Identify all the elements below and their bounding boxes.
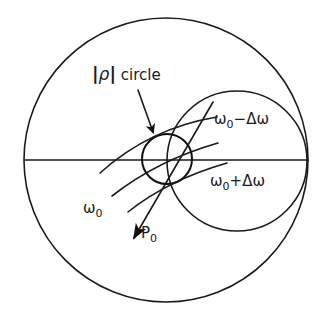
- omega0-label: ω0: [83, 201, 103, 219]
- p0-sub: 0: [150, 232, 157, 245]
- omega0-base: ω: [83, 199, 96, 217]
- rho-circle-word: circle: [116, 66, 161, 84]
- omega-plus-rest: +Δω: [230, 172, 265, 190]
- omega0-sub: 0: [96, 207, 103, 220]
- omega-minus-sub: 0: [227, 118, 234, 131]
- rho-bar-left: |: [92, 63, 99, 84]
- rho-symbol: ρ: [99, 64, 110, 84]
- omega-plus-base: ω: [210, 172, 223, 190]
- rho-circle-label: |ρ| circle: [92, 65, 161, 83]
- omega-plus-sub: 0: [223, 180, 230, 193]
- omega-minus-base: ω: [214, 110, 227, 128]
- rho-bar-right: |: [109, 63, 116, 84]
- omega-plus-label: ω0+Δω: [210, 174, 265, 192]
- p0-line: [134, 102, 213, 238]
- p0-label: P0: [141, 226, 157, 244]
- p0-base: P: [141, 224, 150, 242]
- smith-chart-diagram: [0, 0, 326, 316]
- omega-minus-label: ω0−Δω: [214, 112, 269, 130]
- rho-pointer-arrow: [138, 90, 153, 132]
- omega-minus-rest: −Δω: [234, 110, 269, 128]
